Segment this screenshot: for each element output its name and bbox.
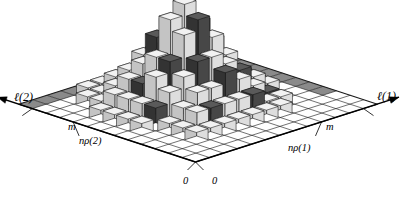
axis-label-l1: ℓ(1) [377,90,396,102]
tick-zero-left [188,162,196,170]
tick-label-m-left: m [68,122,76,133]
axis-label-l2: ℓ(2) [14,91,33,103]
axis-arrow-l2-head [0,97,7,103]
tick-label-m-right: m [326,122,334,133]
tick-label-zero-right: 0 [212,176,217,187]
chart-canvas [0,0,410,204]
figure-3d-bar-chart: ℓ(2) ℓ(1) m m nρ(2) nρ(1) 0 0 [0,0,410,204]
tick-m-right [364,109,374,116]
tick-m-left [22,109,32,116]
tick-label-zero-left: 0 [183,176,188,187]
tick-zero-right [196,162,204,170]
tick-label-nrho1: nρ(1) [288,143,311,154]
tick-label-nrho2: nρ(2) [79,136,102,147]
